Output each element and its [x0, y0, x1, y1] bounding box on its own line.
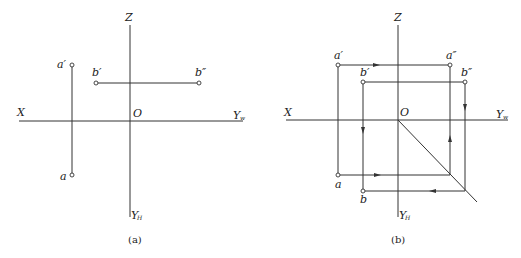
point-a-prime-b: [336, 63, 340, 67]
arrow-up-icon: [448, 135, 452, 142]
x-label-a: X: [16, 106, 26, 119]
point-a-a: [70, 173, 74, 177]
point-a-prime-a: [70, 63, 74, 67]
label-b-prime-a: b′: [92, 66, 102, 79]
label-a-prime-a: a′: [57, 58, 67, 71]
yw-sub-b: w: [503, 113, 509, 120]
yh-sub-b: H: [404, 214, 411, 221]
z-label-b: Z: [393, 11, 402, 24]
z-label-a: Z: [124, 11, 133, 24]
point-b-prime-a: [94, 81, 98, 85]
origin-label-b: O: [400, 106, 409, 119]
point-b-double-prime-b: [463, 80, 467, 84]
projection-diagram: Z X O Y w Y H a′ a b′ b″ (a) Z X O Y w Y…: [0, 0, 521, 258]
label-a-b: a: [335, 178, 342, 191]
arrow-down-icon: [463, 104, 467, 111]
label-b-prime-b: b′: [360, 66, 370, 79]
origin-label-a: O: [133, 107, 142, 120]
label-a-a: a: [60, 170, 67, 183]
point-b-double-prime-a: [197, 81, 201, 85]
point-a-double-prime-b: [448, 63, 452, 67]
point-b-prime-b: [361, 80, 365, 84]
arrow-left-icon: [429, 189, 436, 193]
point-a-b: [336, 173, 340, 177]
arrow-down-icon: [361, 127, 365, 134]
yh-sub-a: H: [136, 214, 143, 221]
label-b-double-prime-a: b″: [195, 66, 207, 79]
label-a-double-prime-b: a″: [446, 49, 458, 62]
arrow-right-icon: [373, 63, 380, 67]
figure-b: Z X O Y w Y H a′ a″ a b′ b″ b: [283, 11, 509, 245]
caption-b: (b): [391, 234, 405, 245]
label-b-double-prime-b: b″: [461, 66, 473, 79]
yw-sub-a: w: [240, 114, 246, 121]
x-label-b: X: [283, 106, 293, 119]
label-b-b: b: [360, 193, 367, 206]
label-a-prime-b: a′: [334, 49, 344, 62]
arrow-right-icon: [374, 173, 381, 177]
figure-a: Z X O Y w Y H a′ a b′ b″ (a): [16, 11, 246, 245]
caption-a: (a): [128, 234, 142, 245]
